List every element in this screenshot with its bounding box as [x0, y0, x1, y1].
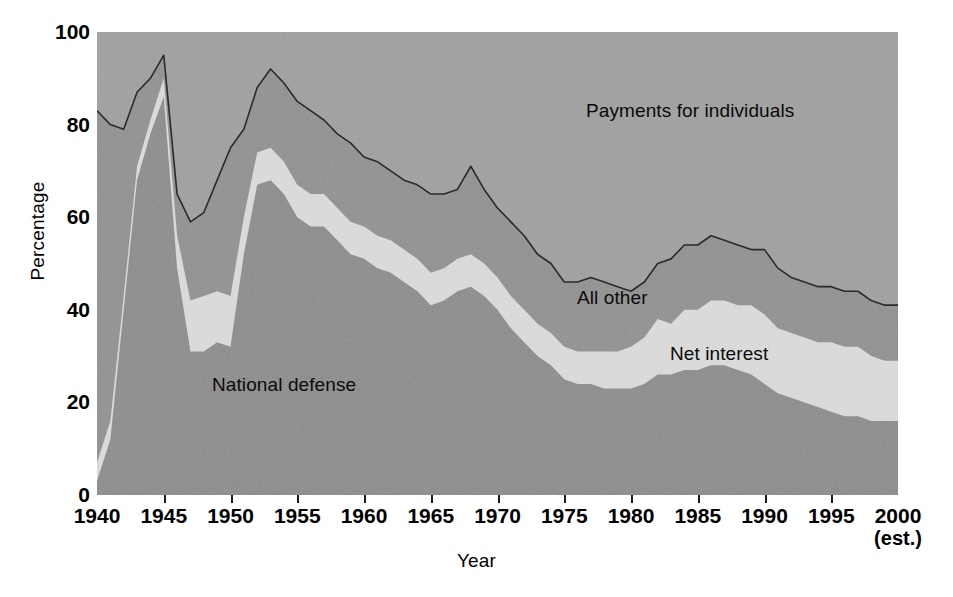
x-tick-mark: [164, 495, 166, 503]
x-tick-mark: [564, 495, 566, 503]
x-tick-mark: [631, 495, 633, 503]
chart-figure: Percentage 020406080100 1940194519501955…: [0, 0, 953, 597]
y-tick-label: 0: [38, 484, 90, 505]
x-tick-mark: [297, 495, 299, 503]
y-tick-label: 60: [38, 206, 90, 227]
x-axis-title: Year: [0, 550, 953, 572]
y-tick-label: 20: [38, 391, 90, 412]
x-tick-mark: [698, 495, 700, 503]
x-tick-mark: [364, 495, 366, 503]
x-tick-mark: [498, 495, 500, 503]
y-tick-label: 80: [38, 114, 90, 135]
y-tick-label: 100: [38, 21, 90, 42]
y-tick-label: 40: [38, 299, 90, 320]
x-tick-mark: [765, 495, 767, 503]
x-tick-label: 2000(est.): [853, 505, 943, 549]
x-tick-mark: [431, 495, 433, 503]
x-tick-mark: [831, 495, 833, 503]
series-label-payments-for-individuals: Payments for individuals: [586, 100, 794, 122]
x-tick-mark: [231, 495, 233, 503]
series-label-all-other: All other: [577, 287, 648, 309]
series-label-national-defense: National defense: [212, 374, 356, 396]
series-label-net-interest: Net interest: [670, 343, 768, 365]
x-tick-estimate-note: (est.): [853, 528, 943, 550]
